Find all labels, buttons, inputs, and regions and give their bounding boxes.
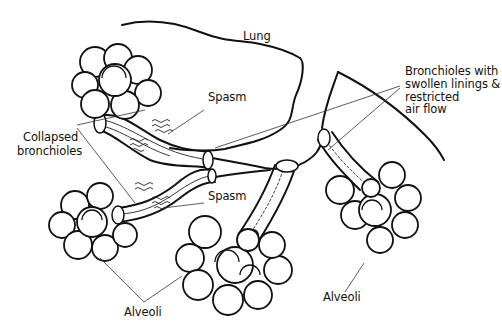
- spasm-label-bottom: Spasm: [208, 190, 246, 203]
- alveoli-label-left: Alveoli: [124, 306, 162, 319]
- alveoli-cluster-right: [326, 162, 421, 253]
- collapsed-bronchioles-label-line2: bronchioles: [17, 145, 82, 158]
- alveoli-cluster-top-left: [72, 44, 161, 119]
- alveoli-cluster-bottom-center: [176, 216, 292, 315]
- bronchioles-diagram: [0, 0, 502, 329]
- swollen-bronchioles-label-line4: air flow: [405, 103, 447, 116]
- lung-label: Lung: [243, 30, 271, 43]
- lung-outline: [122, 21, 444, 160]
- spasm-label-top: Spasm: [208, 91, 246, 104]
- collapsed-bronchioles-label-line1: Collapsed: [23, 131, 78, 144]
- alveoli-label-right: Alveoli: [323, 291, 361, 304]
